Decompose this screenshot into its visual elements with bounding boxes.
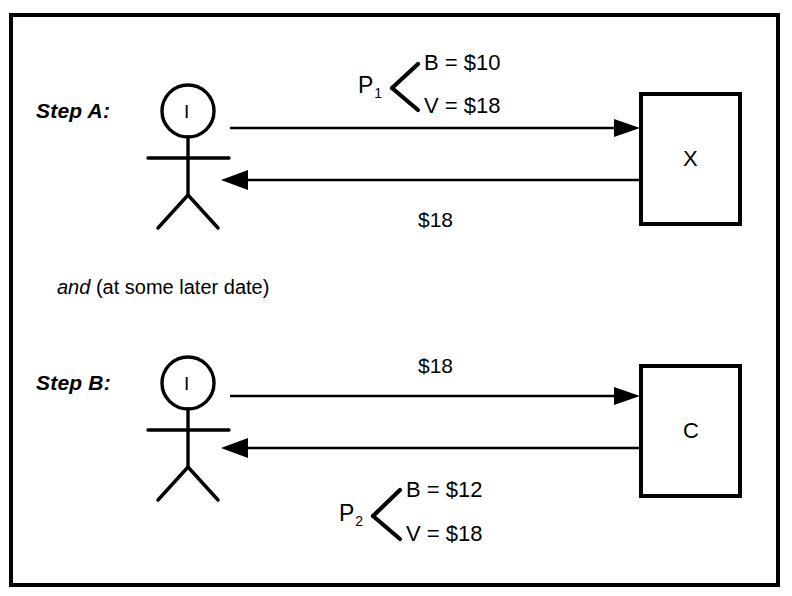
- p2-label: P2: [339, 502, 362, 525]
- connector-note-rest: (at some later date): [96, 276, 269, 298]
- step-a-inbound-amount: $18: [418, 209, 453, 230]
- box-c-letter: C: [683, 420, 699, 442]
- stick-figure-leg-right-a: [188, 195, 218, 228]
- step-a-label: Step A:: [36, 100, 110, 121]
- p2-base: P: [339, 500, 354, 526]
- stick-figure-leg-left-b: [158, 467, 188, 500]
- connector-note: and (at some later date): [57, 277, 269, 297]
- actor-letter-step-b: I: [184, 374, 189, 393]
- actor-letter-step-a: I: [184, 102, 189, 121]
- p2-detail-b: B = $12: [406, 479, 482, 501]
- p2-subscript: 2: [355, 513, 363, 529]
- p2-detail-v: V = $18: [406, 523, 482, 545]
- connector-note-emphasis: and: [57, 276, 90, 298]
- arrow-step-a-inbound: [221, 170, 641, 190]
- box-x-letter: X: [683, 148, 698, 170]
- arrow-step-b-outbound: [230, 387, 640, 405]
- arrow-step-a-outbound: [230, 119, 640, 137]
- diagram-canvas: Step A: I P1 B = $10 V = $18 X $18 and (…: [0, 0, 792, 596]
- step-b-label: Step B:: [36, 372, 111, 393]
- p1-subscript: 1: [374, 85, 382, 101]
- p1-detail-v: V = $18: [424, 95, 500, 117]
- bracket-p2: [373, 490, 400, 539]
- step-b-outbound-amount: $18: [418, 355, 453, 376]
- diagram-graphics: [0, 0, 792, 596]
- stick-figure-leg-right-b: [188, 467, 218, 500]
- p1-label: P1: [358, 74, 381, 97]
- p1-base: P: [358, 72, 373, 98]
- stick-figure-leg-left-a: [158, 195, 188, 228]
- arrow-step-b-inbound: [221, 438, 641, 458]
- bracket-p1: [392, 64, 418, 110]
- p1-detail-b: B = $10: [424, 52, 500, 74]
